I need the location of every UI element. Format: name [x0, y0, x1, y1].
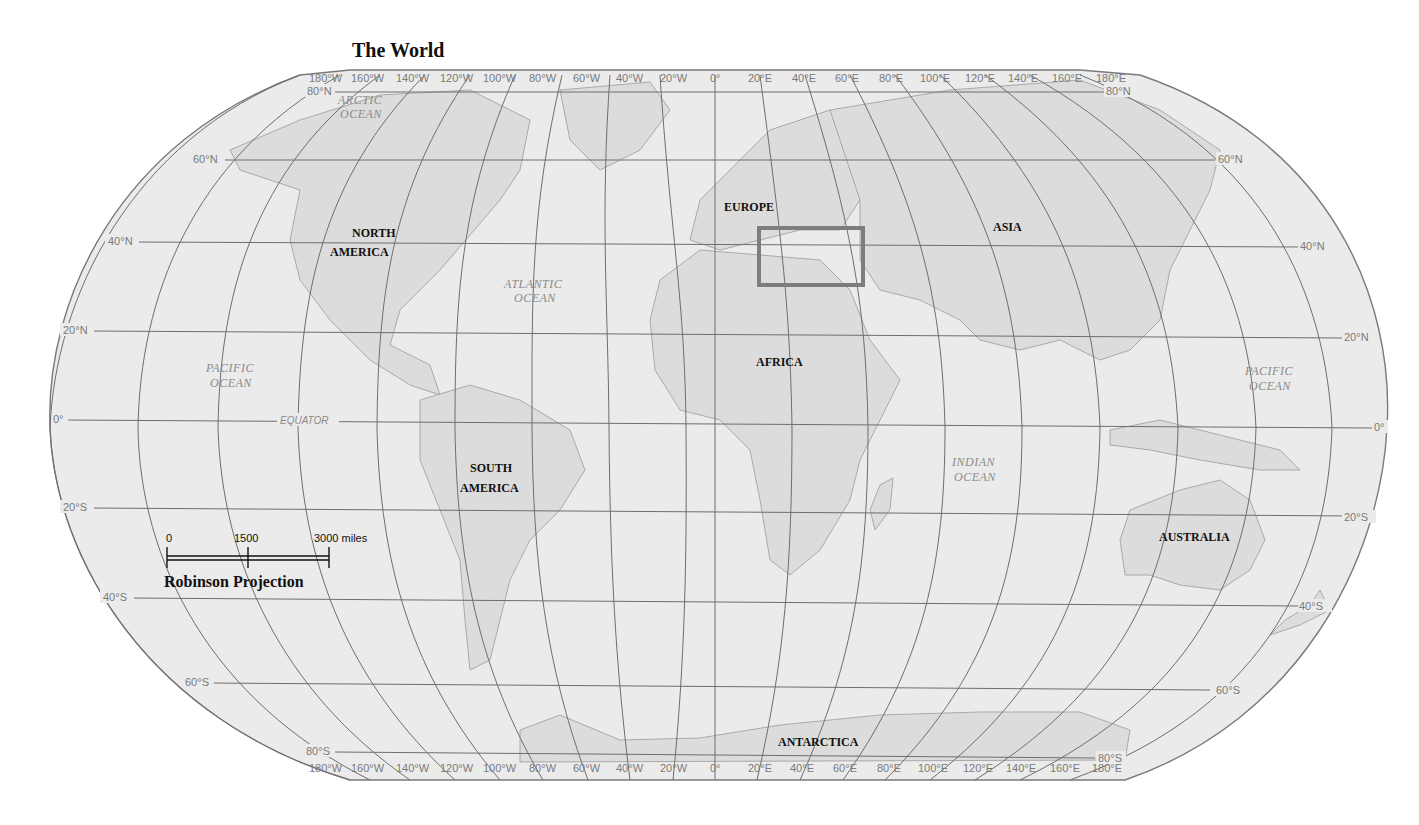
lon-label-top: 160°W [351, 72, 385, 84]
lat-label-right: 0° [1374, 421, 1385, 433]
lat-label-left: 0° [53, 413, 64, 425]
lon-label-top: 140°W [396, 72, 430, 84]
label-australia: AUSTRALIA [1159, 530, 1230, 544]
label-indian-ocean-line2: OCEAN [954, 470, 996, 484]
lon-label-bottom: 0° [710, 762, 721, 774]
label-africa: AFRICA [756, 355, 803, 369]
lon-label-bottom: 20°E [748, 762, 772, 774]
lon-label-bottom: 100°E [918, 762, 948, 774]
lat-label-right: 40°N [1300, 240, 1325, 252]
projection-label: Robinson Projection [164, 573, 304, 591]
lat-label-right: 20°N [1344, 331, 1369, 343]
lon-label-bottom: 160°E [1050, 762, 1080, 774]
lat-label-left: 80°S [306, 745, 330, 757]
lon-label-bottom: 40°W [616, 762, 644, 774]
label-antarctica: ANTARCTICA [778, 735, 859, 749]
label-atlantic-ocean-line2: OCEAN [514, 291, 556, 305]
label-atlantic-ocean-line1: ATLANTIC [503, 277, 563, 291]
label-south-america-line1: SOUTH [470, 461, 513, 475]
lon-label-top: 120°E [965, 72, 995, 84]
scale-label-3000: 3000 miles [314, 532, 368, 544]
lon-label-top: 20°W [660, 72, 688, 84]
lat-label-left: 80°N [307, 85, 332, 97]
label-arctic-ocean-line2: OCEAN [340, 107, 382, 121]
lon-label-top: 80°W [529, 72, 557, 84]
lon-label-bottom: 180°W [309, 762, 343, 774]
lon-label-top: 180°E [1096, 72, 1126, 84]
lon-label-bottom: 160°W [351, 762, 385, 774]
label-pacific-ocean-west-line2: OCEAN [210, 376, 252, 390]
label-north-america-line1: NORTH [352, 226, 396, 240]
map-title: The World [352, 39, 444, 61]
label-pacific-ocean-east-line1: PACIFIC [1244, 364, 1293, 378]
lat-label-right: 40°S [1299, 600, 1323, 612]
lat-label-left: 40°S [103, 591, 127, 603]
lon-label-top: 140°E [1008, 72, 1038, 84]
scale-label-1500: 1500 [234, 532, 258, 544]
lat-label-left: 60°S [185, 676, 209, 688]
lon-label-top: 40°E [792, 72, 816, 84]
lon-label-bottom: 140°E [1006, 762, 1036, 774]
label-pacific-ocean-west-line1: PACIFIC [205, 361, 254, 375]
lon-label-top: 120°W [440, 72, 474, 84]
world-map: The World [0, 0, 1419, 825]
lat-label-right: 80°S [1098, 752, 1122, 764]
lon-label-bottom: 120°W [440, 762, 474, 774]
lat-label-right: 80°N [1106, 85, 1131, 97]
lon-label-bottom: 80°E [877, 762, 901, 774]
lon-label-top: 60°E [835, 72, 859, 84]
label-south-america-line2: AMERICA [460, 481, 519, 495]
lon-label-bottom: 100°W [483, 762, 517, 774]
lon-label-top: 40°W [616, 72, 644, 84]
lon-label-top: 80°E [879, 72, 903, 84]
lon-label-top: 60°W [573, 72, 601, 84]
scale-label-0: 0 [166, 532, 172, 544]
lat-label-left: 40°N [108, 235, 133, 247]
lat-label-right: 60°N [1218, 153, 1243, 165]
lat-label-right: 60°S [1216, 684, 1240, 696]
lon-label-top: 100°E [920, 72, 950, 84]
lon-label-bottom: 140°W [396, 762, 430, 774]
lon-label-top: 0° [710, 72, 721, 84]
label-north-america-line2: AMERICA [330, 245, 389, 259]
label-pacific-ocean-east-line2: OCEAN [1249, 379, 1291, 393]
lon-label-top: 20°E [748, 72, 772, 84]
lon-label-bottom: 20°W [660, 762, 688, 774]
lat-label-left: 20°S [63, 501, 87, 513]
lon-label-top: 100°W [483, 72, 517, 84]
lon-label-bottom: 40°E [790, 762, 814, 774]
lon-label-bottom: 60°E [833, 762, 857, 774]
lat-label-left: 60°N [193, 153, 218, 165]
lat-label-right: 20°S [1344, 511, 1368, 523]
lon-label-bottom: 80°W [529, 762, 557, 774]
label-indian-ocean-line1: INDIAN [951, 455, 995, 469]
label-arctic-ocean-line1: ARCTIC [337, 93, 383, 107]
lon-label-bottom: 120°E [963, 762, 993, 774]
lat-label-left: 20°N [63, 324, 88, 336]
label-europe: EUROPE [724, 200, 774, 214]
lon-label-bottom: 60°W [573, 762, 601, 774]
lon-label-top: 160°E [1052, 72, 1082, 84]
equator-label: EQUATOR [280, 415, 329, 426]
label-asia: ASIA [993, 220, 1022, 234]
lon-label-top: 180°W [309, 72, 343, 84]
